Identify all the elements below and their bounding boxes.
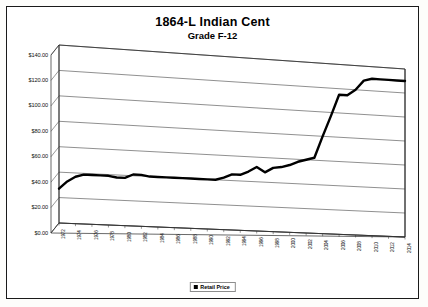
y-axis-label: $60.00 [6, 153, 48, 159]
legend-swatch-retail-price [193, 285, 197, 289]
y-axis-label: $0.00 [6, 230, 48, 236]
x-axis-label: 1976 [94, 231, 99, 241]
y-axis-label: $140.00 [6, 52, 48, 58]
x-axis-label: 1984 [160, 233, 165, 243]
x-axis-label: 2006 [341, 241, 346, 251]
x-axis-label: 1982 [143, 233, 148, 243]
gridlines [51, 45, 405, 237]
x-axis-label: 1988 [193, 235, 198, 245]
x-axis-label: 2002 [308, 239, 313, 249]
y-axis-label: $100.00 [6, 102, 48, 108]
x-axis-label: 1972 [61, 229, 66, 239]
x-axis-label: 2000 [291, 239, 296, 249]
chart-legend: Retail Price [189, 282, 235, 292]
x-axis-label: 2008 [357, 241, 362, 251]
x-axis-label: 1996 [259, 237, 264, 247]
y-axis-label: $40.00 [6, 179, 48, 185]
x-axis-label: 1978 [110, 231, 115, 241]
chart-frame: 1864-L Indian Cent Grade F-12 $0.00$20.0… [6, 6, 419, 299]
data-series-retail-price [59, 79, 405, 189]
x-axis-label: 1992 [226, 236, 231, 246]
x-axis-label: 2004 [324, 240, 329, 250]
y-axis-label: $80.00 [6, 128, 48, 134]
x-axis-label: 2012 [390, 243, 395, 253]
x-axis-label: 2014 [407, 243, 412, 253]
legend-label-retail-price: Retail Price [200, 284, 229, 290]
x-axis-label: 1998 [275, 238, 280, 248]
x-axis-label: 1994 [242, 237, 247, 247]
x-axis-label: 1986 [176, 234, 181, 244]
chart-walls [51, 45, 405, 237]
y-axis-label: $120.00 [6, 77, 48, 83]
x-axis-label: 1974 [77, 230, 82, 240]
x-axis-label: 2010 [374, 242, 379, 252]
x-axis-label: 1980 [127, 232, 132, 242]
plot-area [7, 7, 418, 298]
x-axis-label: 1990 [209, 235, 214, 245]
y-axis-label: $20.00 [6, 204, 48, 210]
